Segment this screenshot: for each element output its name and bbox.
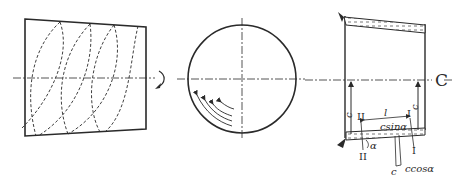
top-deposit-layer <box>344 17 425 33</box>
label-II-top: II <box>357 111 365 122</box>
label-I-top: I <box>407 108 411 119</box>
helical-lines <box>22 22 138 136</box>
label-ccos-alpha: ccosα <box>405 163 434 174</box>
section-view-panel: C c c II II I I l csinα α c ccosα <box>305 12 452 177</box>
label-length: l <box>384 107 387 118</box>
flow-arrows <box>197 95 234 126</box>
label-csin-alpha: csinα <box>380 121 407 132</box>
label-II-bottom: II <box>359 151 367 162</box>
surface-outline <box>25 19 146 136</box>
diagram-canvas: C c c II II I I l csinα α c ccosα <box>0 0 460 184</box>
rotation-arrow-icon <box>155 71 164 89</box>
axis-symbol: C <box>435 70 448 90</box>
end-view-panel <box>177 18 305 140</box>
label-c-bottom: c <box>391 166 397 177</box>
c-vector-line <box>395 136 396 166</box>
label-I-bottom: I <box>412 145 416 156</box>
developed-surface-panel <box>13 19 155 136</box>
label-alpha: α <box>370 140 377 151</box>
ccos-vector-line <box>399 135 401 165</box>
label-c-left: c <box>343 112 354 118</box>
